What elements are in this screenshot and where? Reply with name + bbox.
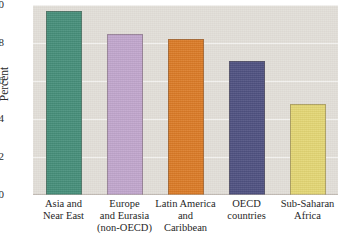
y-axis-tick-label: 2 <box>0 151 4 162</box>
x-axis-category-label-line: countries <box>216 210 277 222</box>
x-axis-category-label: OECDcountries <box>216 198 277 222</box>
x-axis-category-label: Europeand Eurasia(non-OECD) <box>94 198 155 233</box>
plot-area <box>33 5 338 195</box>
bar <box>290 104 326 195</box>
x-axis-category-label: Latin AmericaandCaribbean <box>155 198 216 233</box>
x-axis-category-labels: Asia andNear EastEuropeand Eurasia(non-O… <box>33 198 338 243</box>
bar-chart-figure: Percent 0246810 Asia andNear EastEuropea… <box>0 0 343 243</box>
x-axis-category-label-line: Sub-Saharan <box>277 198 338 210</box>
axis-baseline <box>33 194 338 195</box>
x-axis-category-label-line: Africa <box>277 210 338 222</box>
x-axis-category-label-line: and <box>155 210 216 222</box>
x-axis-category-label-line: Caribbean <box>155 222 216 234</box>
bar <box>107 34 143 196</box>
y-axis-tick-label: 10 <box>0 0 4 10</box>
x-axis-category-label-line: Near East <box>33 210 94 222</box>
x-axis-category-label-line: Latin America <box>155 198 216 210</box>
x-axis-category-label-line: Asia and <box>33 198 94 210</box>
cropped-page-text-fragment <box>120 0 300 2</box>
bar <box>229 61 265 195</box>
gridline <box>33 5 338 6</box>
y-axis-tick-label: 8 <box>0 37 4 48</box>
x-axis-category-label-line: and Eurasia <box>94 210 155 222</box>
y-axis-tick-label: 6 <box>0 75 4 86</box>
bar <box>168 39 204 195</box>
x-axis-category-label-line: Europe <box>94 198 155 210</box>
x-axis-category-label-line: (non-OECD) <box>94 222 155 234</box>
y-axis-tick-label: 4 <box>0 113 4 124</box>
x-axis-category-label-line: OECD <box>216 198 277 210</box>
bar <box>46 11 82 195</box>
x-axis-category-label: Sub-SaharanAfrica <box>277 198 338 222</box>
y-axis-tick-label: 0 <box>0 189 4 200</box>
x-axis-category-label: Asia andNear East <box>33 198 94 222</box>
